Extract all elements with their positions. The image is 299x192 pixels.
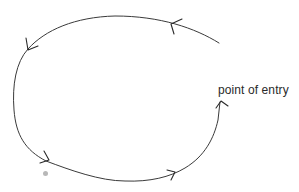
cycle-loop-path — [14, 16, 220, 181]
arrow-head-top-icon — [171, 19, 182, 34]
arrow-head-upper-left-icon — [26, 38, 38, 50]
arrow-head-entry-icon — [216, 101, 228, 108]
point-of-entry-label: point of entry — [218, 83, 289, 97]
grey-dot-mark — [43, 171, 48, 176]
